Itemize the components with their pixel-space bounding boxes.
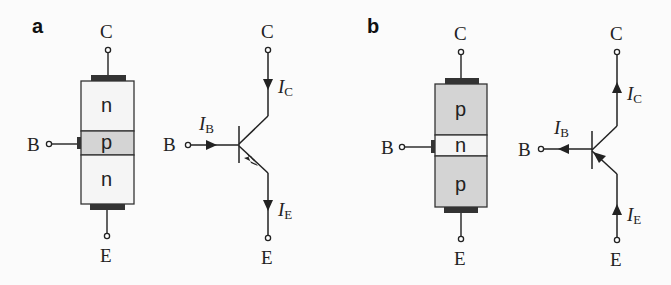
base-doping: n [455,134,466,156]
device-collector-label: C [100,21,113,42]
emitter-doping: n [101,168,112,190]
base-current-label: IB [198,113,214,136]
base-contact [77,137,81,149]
base-contact [431,140,435,153]
panel-label-b: b [367,15,379,37]
schematic-base-label: B [163,134,176,155]
emitter-current-arrow-icon [263,200,273,211]
pnp-device-structure: C p n p B E [381,23,487,269]
panel-label-a: a [32,15,44,37]
transistor-figure: a C n p n B E C [0,0,671,285]
npn-device-structure: C n p n B E [27,21,134,266]
device-collector-label: C [454,23,467,44]
collector-doping: p [455,98,466,120]
emitter-arrow-icon [244,153,258,166]
pnp-schematic: C IC B IB IE E [518,23,642,270]
schematic-collector-label: C [610,23,623,44]
npn-schematic: C IC B IB IE E [163,21,293,268]
emitter-doping: p [455,173,466,195]
schematic-base-label: B [518,139,531,160]
emitter-current-arrow-icon [612,204,622,215]
collector-current-arrow-icon [612,82,622,93]
schematic-collector-label: C [261,21,274,42]
collector-current-label: IC [277,76,293,99]
panel-b: b C p n p B E C IC [367,15,642,270]
base-terminal [46,141,51,146]
device-emitter-label: E [100,245,112,266]
panel-a: a C n p n B E C [27,15,293,268]
schematic-emitter-label: E [610,249,622,270]
emitter-terminal [104,233,109,238]
device-base-label: B [381,137,394,158]
base-current-arrow-icon [206,140,217,150]
emitter-current-label: IE [626,204,641,227]
collector-current-arrow-icon [263,79,273,90]
device-emitter-label: E [454,248,466,269]
collector-terminal [105,47,110,52]
emitter-current-label: IE [277,199,292,222]
emitter-contact [444,207,478,213]
emitter-contact [90,204,125,210]
collector-contact [91,75,126,81]
collector-current-label: IC [626,83,642,106]
base-current-label: IB [553,117,569,140]
schematic-emitter-label: E [261,247,273,268]
collector-contact [445,78,479,84]
device-base-label: B [27,134,40,155]
collector-doping: n [101,94,112,116]
base-doping: p [101,131,112,153]
base-current-arrow-icon [558,144,569,154]
